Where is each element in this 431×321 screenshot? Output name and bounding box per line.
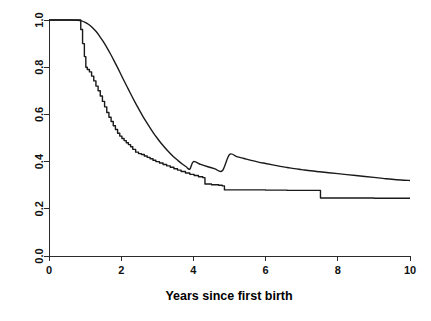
y-axis-tick-label: 0.8 [33,60,45,75]
x-axis-title: Years since first birth [165,289,292,303]
x-axis-tick-label: 8 [335,264,341,276]
y-axis-tick-label: 0.0 [33,248,45,263]
y-axis-tick-label: 0.2 [33,201,45,216]
y-axis-tick-label: 0.4 [33,153,45,169]
x-axis-tick-label: 2 [118,264,124,276]
chart-background [0,0,431,321]
x-axis-tick-label: 0 [46,264,52,276]
y-axis-tick-label: 0.6 [33,107,45,122]
x-axis-tick-label: 10 [404,264,416,276]
x-axis-tick-label: 6 [263,264,269,276]
x-axis-tick-label: 4 [190,264,197,276]
y-axis-tick-label: 1.0 [33,12,45,27]
survival-chart-figure: 0.00.20.40.60.81.0 0246810 Years since f… [0,0,431,321]
chart-canvas: 0.00.20.40.60.81.0 0246810 Years since f… [0,0,431,321]
